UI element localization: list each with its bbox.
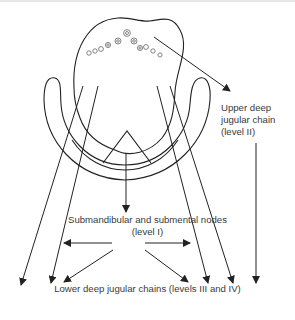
left-drainage-inner: [51, 86, 98, 283]
arrow-to-upper-deep: [154, 37, 230, 91]
arrow-level-i-downleft: [64, 250, 113, 282]
lymph-nodes: [87, 30, 162, 58]
midline-chevron: [103, 131, 151, 163]
label-line: Upper deep: [221, 102, 275, 114]
label-line: (level II): [221, 126, 275, 138]
lymph-drainage-diagram: [0, 0, 295, 320]
right-drainage-inner: [157, 86, 208, 283]
label-lower-deep-jugular: Lower deep jugular chains (levels III an…: [0, 283, 295, 295]
label-line: Submandibular and submental nodes: [0, 214, 295, 226]
label-upper-deep-jugular: Upper deep jugular chain (level II): [221, 102, 275, 138]
label-submandibular-nodes: Submandibular and submental nodes (level…: [0, 214, 295, 238]
arrow-level-i-downright: [145, 250, 188, 282]
label-line: jugular chain: [221, 114, 275, 126]
left-drainage-outer: [21, 86, 83, 285]
label-line: (level I): [0, 226, 295, 238]
mandible-outer: [44, 78, 210, 180]
